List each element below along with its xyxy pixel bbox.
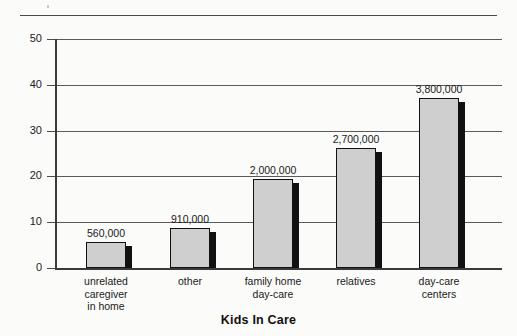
chart-canvas: 01020304050 560,000910,0002,000,0002,700…	[0, 0, 517, 336]
bar-value-label: 910,000	[145, 214, 235, 225]
chart-title: Kids In Care	[0, 313, 517, 327]
bar-shadow	[458, 102, 465, 268]
bar-shadow	[125, 246, 132, 268]
bar[interactable]	[336, 148, 376, 268]
x-axis-category-label: day-carecenters	[384, 275, 494, 300]
scan-speck-artifact	[47, 5, 49, 8]
top-horizontal-rule	[20, 15, 497, 16]
category-label-line: day-care	[384, 275, 494, 288]
category-label-line: day-care	[218, 288, 328, 301]
bar-value-label: 2,700,000	[311, 134, 401, 145]
bar-value-label: 2,000,000	[228, 165, 318, 176]
y-axis-tick-label: 50	[0, 33, 42, 44]
bar-shadow	[209, 232, 216, 268]
y-axis-tick-label: 20	[0, 170, 42, 181]
y-axis-tick-label: 30	[0, 125, 42, 136]
bar[interactable]	[419, 98, 459, 268]
bar-shadow	[375, 152, 382, 268]
bar[interactable]	[253, 179, 293, 268]
y-axis-tick-label: 10	[0, 216, 42, 227]
bar[interactable]	[170, 228, 210, 268]
category-label-line: caregiver	[51, 288, 161, 301]
chart-title-text: Kids In Care	[221, 313, 296, 327]
category-label-line: centers	[384, 288, 494, 301]
bar-value-label: 560,000	[61, 228, 151, 239]
x-axis-line	[55, 268, 502, 270]
bar-value-label: 3,800,000	[394, 84, 484, 95]
gridline-50	[55, 39, 502, 40]
category-label-line: in home	[51, 300, 161, 313]
y-axis-line	[55, 39, 57, 269]
y-axis-tick-label: 0	[0, 262, 42, 273]
bar[interactable]	[86, 242, 126, 268]
y-axis-tick-label: 40	[0, 79, 42, 90]
bar-shadow	[292, 183, 299, 268]
